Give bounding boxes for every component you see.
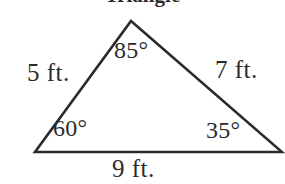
triangle-figure: Triangle 5 ft. 7 ft. 9 ft. 85° 60° 35° bbox=[0, 0, 285, 184]
angle-label-apex: 85° bbox=[114, 38, 149, 62]
angle-label-bottom-right: 35° bbox=[206, 118, 241, 142]
side-label-left: 5 ft. bbox=[27, 60, 70, 85]
side-label-right: 7 ft. bbox=[215, 57, 258, 82]
side-label-bottom: 9 ft. bbox=[112, 156, 155, 181]
angle-label-bottom-left: 60° bbox=[53, 116, 88, 140]
